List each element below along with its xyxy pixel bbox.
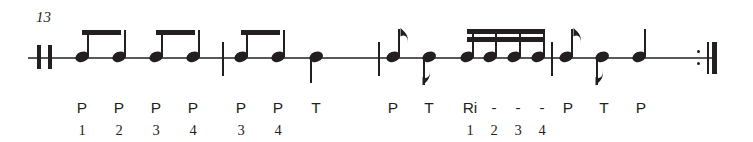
stem-up <box>198 30 200 57</box>
stem-up <box>161 30 163 57</box>
sticking-label-8: P <box>388 100 398 116</box>
sticking-label-3: P <box>151 100 161 116</box>
sticking-label-4: P <box>188 100 198 116</box>
count-label-13: 4 <box>538 123 545 138</box>
count-label-12: 3 <box>514 123 521 138</box>
staff-line <box>28 57 712 59</box>
count-label-6: 4 <box>274 123 281 138</box>
stem-up <box>124 30 126 57</box>
opening-double-barline-right <box>48 45 52 69</box>
sticking-label-7: T <box>311 100 320 116</box>
stem-up <box>87 30 89 57</box>
sticking-label-15: T <box>599 100 608 116</box>
final-barline-thick <box>712 42 717 74</box>
repeat-dot-upper <box>697 50 700 53</box>
stem-up <box>519 29 521 57</box>
sticking-label-10: Ri <box>463 100 478 116</box>
opening-double-barline-left <box>37 45 41 69</box>
eighth-flag-down <box>595 66 609 86</box>
eighth-flag-up <box>573 28 587 48</box>
count-label-10: 1 <box>466 123 473 138</box>
stem-down <box>310 57 312 83</box>
sticking-label-5: P <box>236 100 246 116</box>
count-label-1: 1 <box>78 123 85 138</box>
sticking-label-13: - <box>539 100 544 116</box>
sticking-label-9: T <box>424 100 433 116</box>
barline-2 <box>378 42 380 76</box>
stem-up <box>283 30 285 57</box>
repeat-dot-lower <box>697 62 700 65</box>
sticking-label-2: P <box>114 100 124 116</box>
count-label-3: 3 <box>152 123 159 138</box>
sticking-label-1: P <box>77 100 87 116</box>
final-barline-thin <box>707 42 709 74</box>
sticking-label-6: P <box>273 100 283 116</box>
stem-up <box>644 29 646 57</box>
sticking-label-14: P <box>563 100 573 116</box>
beam-group-4-primary <box>467 29 544 34</box>
sticking-label-16: P <box>636 100 646 116</box>
eighth-flag-down <box>422 66 436 86</box>
barline-1 <box>222 42 224 76</box>
measure-number: 13 <box>36 10 51 25</box>
count-label-5: 3 <box>237 123 244 138</box>
count-label-2: 2 <box>115 123 122 138</box>
count-label-11: 2 <box>490 123 497 138</box>
sticking-label-12: - <box>515 100 520 116</box>
sticking-label-11: - <box>491 100 496 116</box>
beam-group-4-secondary <box>467 37 544 42</box>
count-label-4: 4 <box>189 123 196 138</box>
stem-up <box>495 29 497 57</box>
barline-3 <box>551 42 553 76</box>
rhythm-notation-sheet: 13 <box>0 0 753 142</box>
stem-up <box>472 29 474 57</box>
stem-up <box>246 30 248 57</box>
stem-up <box>543 29 545 57</box>
eighth-flag-up <box>400 28 414 48</box>
